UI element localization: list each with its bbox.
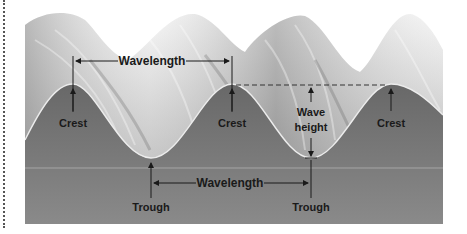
wave-height-label-line1: Wave bbox=[297, 106, 325, 118]
background-ghost-text bbox=[250, 2, 253, 17]
water-cross-section bbox=[25, 84, 443, 224]
wavelength-top-label: Wavelength bbox=[119, 54, 186, 68]
crest-label-2: Crest bbox=[218, 117, 246, 129]
wavelength-bottom-label: Wavelength bbox=[197, 176, 264, 190]
trough-label-1: Trough bbox=[132, 201, 170, 213]
trough-label-2: Trough bbox=[292, 201, 330, 213]
wave-height-label-line2: height bbox=[295, 121, 328, 133]
crest-label-1: Crest bbox=[59, 117, 87, 129]
wave-diagram: Wavelength Crest Crest Crest Wave height… bbox=[0, 0, 467, 234]
crest-label-3: Crest bbox=[377, 117, 405, 129]
